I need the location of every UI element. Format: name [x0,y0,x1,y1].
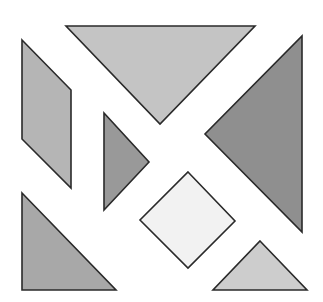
tangram-diagram [0,0,323,302]
